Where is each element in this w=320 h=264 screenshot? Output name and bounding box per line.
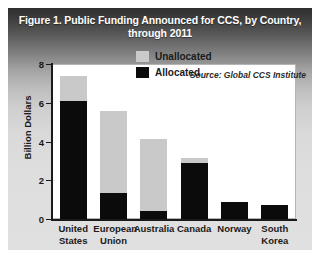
plot-area [52, 64, 296, 219]
legend-item-allocated: Allocated [136, 65, 212, 79]
bar-segment-allocated [221, 202, 248, 219]
legend-label: Allocated [155, 67, 200, 78]
bar-segment-unallocated [60, 76, 87, 101]
bar-canada [181, 158, 208, 219]
y-tick-label: 6 [22, 99, 44, 108]
x-axis-label-european-union: EuropeanUnion [93, 223, 133, 246]
bar-segment-allocated [140, 211, 167, 219]
x-axis-label-line: South [255, 223, 295, 235]
bar-norway [221, 202, 248, 219]
y-tick-mark [46, 103, 52, 104]
y-tick-mark [46, 180, 52, 181]
bar-segment-allocated [100, 193, 127, 219]
y-tick-label: 4 [22, 138, 44, 147]
y-tick-mark [46, 64, 52, 65]
x-axis-label-line: European [93, 223, 133, 235]
y-tick-mark [46, 219, 52, 220]
bar-australia [140, 139, 167, 219]
y-tick-label: 2 [22, 176, 44, 185]
figure-title-line-1: Figure 1. Public Funding Announced for C… [19, 14, 302, 26]
x-axis-label-line: Australia [134, 223, 174, 235]
x-axis-label-norway: Norway [214, 223, 254, 235]
x-axis-label-line: Norway [214, 223, 254, 235]
x-axis-label-line: Canada [174, 223, 214, 235]
figure-title-line-2: through 2011 [8, 27, 312, 40]
x-axis-label-line: States [53, 235, 93, 247]
bar-segment-allocated [181, 163, 208, 219]
figure-title: Figure 1. Public Funding Announced for C… [8, 14, 312, 40]
x-axis-label-line: Union [93, 235, 133, 247]
bar-segment-allocated [60, 101, 87, 219]
x-axis-line [51, 219, 297, 221]
chart-legend: UnallocatedAllocated [136, 49, 212, 81]
x-axis-label-line: Korea [255, 235, 295, 247]
y-tick-label: 0 [22, 215, 44, 224]
bar-european-union [100, 111, 127, 219]
x-axis-label-australia: Australia [134, 223, 174, 235]
y-tick-label: 8 [22, 60, 44, 69]
bar-segment-allocated [261, 205, 288, 219]
legend-swatch-unallocated [136, 51, 149, 62]
x-axis-label-canada: Canada [174, 223, 214, 235]
bar-segment-unallocated [100, 111, 127, 193]
x-axis-label-line: United [53, 223, 93, 235]
legend-swatch-allocated [136, 67, 149, 78]
y-axis-title: Billion Dollars [22, 83, 33, 173]
y-tick-mark [46, 142, 52, 143]
legend-label: Unallocated [155, 51, 212, 62]
bar-south-korea [261, 205, 288, 219]
x-axis-label-south-korea: SouthKorea [255, 223, 295, 246]
bar-united-states [60, 76, 87, 219]
figure-container: Figure 1. Public Funding Announced for C… [8, 8, 312, 250]
x-axis-label-united-states: UnitedStates [53, 223, 93, 246]
legend-item-unallocated: Unallocated [136, 49, 212, 63]
bar-segment-unallocated [140, 139, 167, 211]
